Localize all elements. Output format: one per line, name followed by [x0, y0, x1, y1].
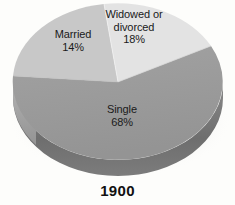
pie-top-face: [13, 3, 223, 159]
pie-chart-figure: Widowed or divorced 18% Married 14% Sing…: [0, 0, 235, 205]
pie-slice-married: [13, 4, 118, 82]
chart-caption-year: 1900: [0, 182, 235, 199]
pie-chart-graphic: [0, 0, 235, 205]
